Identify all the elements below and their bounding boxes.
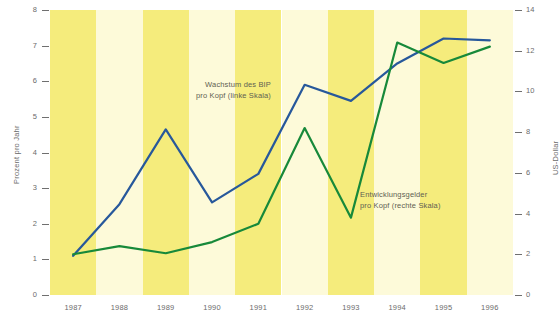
y-axis-right-tick-label: 2 (526, 249, 548, 258)
background-stripe (467, 10, 513, 295)
x-axis-tick-label: 1989 (146, 303, 186, 312)
annotation-development-aid-line1: Entwicklungsgelder (360, 190, 441, 201)
y-axis-left-tick (42, 224, 49, 225)
y-axis-right-tick (515, 91, 522, 92)
y-axis-right-tick (515, 173, 522, 174)
annotation-gdp-growth: Wachstum des BIP pro Kopf (linke Skala) (196, 80, 271, 102)
annotation-gdp-growth-line2: pro Kopf (linke Skala) (196, 91, 271, 102)
y-axis-left-tick (42, 295, 49, 296)
y-axis-left-tick (42, 259, 49, 260)
annotation-development-aid: Entwicklungsgelder pro Kopf (rechte Skal… (360, 190, 441, 212)
y-axis-left-tick (42, 10, 49, 11)
annotation-development-aid-line2: pro Kopf (rechte Skala) (360, 201, 441, 212)
x-axis-tick-label: 1996 (470, 303, 510, 312)
y-axis-left-tick (42, 153, 49, 154)
x-axis-tick-label: 1992 (285, 303, 325, 312)
y-axis-right-tick-label: 0 (526, 290, 548, 299)
y-axis-right-tick-label: 14 (526, 5, 548, 14)
y-axis-right-tick-label: 6 (526, 168, 548, 177)
y-axis-left-tick-label: 3 (17, 183, 37, 192)
y-axis-right-tick-label: 4 (526, 209, 548, 218)
y-axis-right-tick-label: 10 (526, 86, 548, 95)
y-axis-left-title: Prozent pro Jahr (12, 125, 21, 184)
y-axis-right-tick (515, 132, 522, 133)
background-stripe (374, 10, 420, 295)
background-stripe (50, 10, 96, 295)
background-stripe (143, 10, 189, 295)
x-axis-tick-label: 1994 (377, 303, 417, 312)
background-stripe (328, 10, 374, 295)
y-axis-right-title: US-Dollar (551, 140, 559, 174)
x-axis-tick-label: 1987 (53, 303, 93, 312)
y-axis-left-tick-label: 0 (17, 290, 37, 299)
y-axis-left-tick-label: 2 (17, 219, 37, 228)
x-axis-tick-label: 1990 (192, 303, 232, 312)
background-stripe (420, 10, 466, 295)
chart-container: 012345678 Prozent pro Jahr 02468101214 U… (0, 0, 559, 321)
y-axis-right-tick (515, 295, 522, 296)
y-axis-right-tick-label: 8 (526, 127, 548, 136)
background-stripe (189, 10, 235, 295)
y-axis-left-tick-label: 6 (17, 76, 37, 85)
y-axis-left-tick (42, 188, 49, 189)
y-axis-left-tick (42, 117, 49, 118)
y-axis-left-tick-label: 8 (17, 5, 37, 14)
background-stripe (282, 10, 328, 295)
x-axis-tick-label: 1995 (424, 303, 464, 312)
background-stripe (96, 10, 142, 295)
annotation-gdp-growth-line1: Wachstum des BIP (196, 80, 271, 91)
y-axis-right-tick (515, 254, 522, 255)
y-axis-left-tick-label: 7 (17, 41, 37, 50)
x-axis-tick-label: 1991 (238, 303, 278, 312)
x-axis-tick-label: 1993 (331, 303, 371, 312)
y-axis-right-tick (515, 10, 522, 11)
y-axis-left-tick-label: 5 (17, 112, 37, 121)
y-axis-left-tick (42, 46, 49, 47)
y-axis-left-tick-label: 1 (17, 254, 37, 263)
y-axis-right-tick (515, 51, 522, 52)
y-axis-right-tick (515, 214, 522, 215)
background-stripe (235, 10, 281, 295)
y-axis-left-tick (42, 81, 49, 82)
plot-area (50, 10, 513, 295)
y-axis-right-tick-label: 12 (526, 46, 548, 55)
x-axis-tick-label: 1988 (99, 303, 139, 312)
